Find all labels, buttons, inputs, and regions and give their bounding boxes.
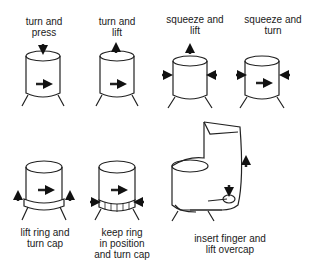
container-squeeze-and-turn: [236, 56, 290, 108]
container-squeeze-and-lift: [162, 48, 217, 108]
container-turn-and-press: [22, 44, 64, 106]
container-overcap: [172, 122, 246, 221]
container-turn-and-lift: [96, 47, 138, 106]
container-keep-ring: [90, 161, 144, 220]
diagram-drawings: [0, 0, 320, 273]
container-lift-ring: [18, 161, 70, 220]
